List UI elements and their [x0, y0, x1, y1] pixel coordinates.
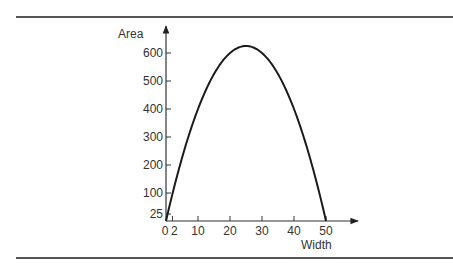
- y-tick-label: 400: [143, 102, 163, 116]
- x-tick-label: 20: [223, 224, 237, 238]
- area-curve: [166, 46, 326, 221]
- y-axis-label: Area: [118, 27, 144, 41]
- x-tick-label: 30: [255, 224, 269, 238]
- y-tick-label: 100: [143, 186, 163, 200]
- y-tick-label: 500: [143, 74, 163, 88]
- x-axis-label: Width: [301, 238, 332, 252]
- x-ticks: 021020304050: [162, 216, 333, 238]
- x-tick-label: 0: [162, 224, 169, 238]
- y-tick-label: 25: [150, 207, 164, 221]
- x-tick-label: 40: [287, 224, 301, 238]
- x-tick-label: 10: [191, 224, 205, 238]
- x-tick-label: 2: [171, 224, 178, 238]
- y-tick-label: 600: [143, 46, 163, 60]
- chart: Area Width 25100200300400500600 02102030…: [0, 0, 453, 264]
- y-ticks: 25100200300400500600: [143, 46, 171, 221]
- y-tick-label: 200: [143, 158, 163, 172]
- x-tick-label: 50: [319, 224, 333, 238]
- y-tick-label: 300: [143, 130, 163, 144]
